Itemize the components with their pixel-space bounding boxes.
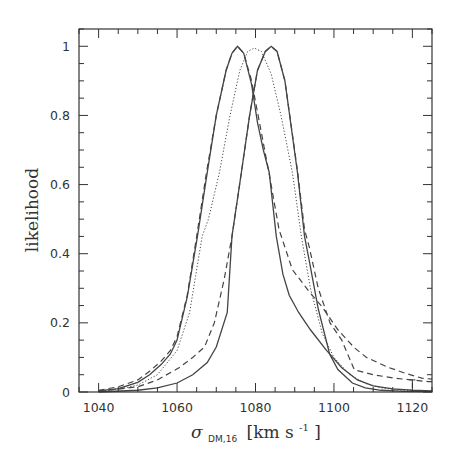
curve-solid-0: [99, 46, 432, 391]
x-label-units: [km s: [247, 422, 294, 442]
curve-dashed-4: [99, 46, 432, 391]
curve-dotted-2: [99, 48, 432, 391]
y-tick-label: 1: [62, 39, 70, 54]
y-tick-label: 0.2: [50, 315, 70, 330]
x-label-close: ]: [314, 422, 321, 442]
y-tick-label: 0.6: [50, 177, 70, 192]
x-tick-label: 1060: [161, 400, 193, 415]
x-label-superscript: -1: [299, 422, 309, 433]
annotations: [409, 380, 415, 388]
x-tick-label: 1100: [318, 400, 350, 415]
y-tick-label: 0.4: [50, 246, 70, 261]
y-tick-label: 0.8: [50, 108, 70, 123]
curve-solid-3: [99, 46, 432, 392]
x-tick-label: 1080: [240, 400, 272, 415]
x-tick-label: 1120: [396, 400, 428, 415]
x-label-symbol: σ: [191, 422, 203, 442]
curve-dashed-1: [99, 46, 432, 390]
x-tick-label: 1040: [83, 400, 115, 415]
likelihood-chart: 1040106010801100112000.20.40.60.81 likel…: [0, 0, 455, 461]
tick-labels: 1040106010801100112000.20.40.60.81: [50, 39, 428, 415]
y-axis-label: likelihood: [22, 168, 42, 253]
x-axis-label: σ DM,16 [km s -1 ]: [191, 415, 321, 446]
x-label-subscript: DM,16: [208, 434, 237, 444]
curve-group: [99, 46, 432, 392]
y-tick-label: 0: [62, 385, 70, 400]
